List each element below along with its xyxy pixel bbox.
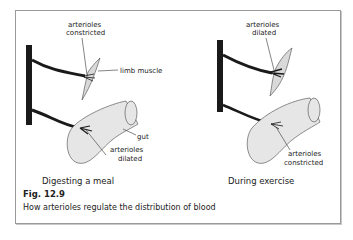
- figure-caption: How arterioles regulate the distribution…: [23, 203, 216, 212]
- muscle-arterioles-label-1: arterioles: [68, 21, 102, 29]
- main-artery: [217, 40, 223, 112]
- gut-arterioles-label-1: arterioles: [288, 150, 322, 158]
- gut-arterioles-label-2: dilated: [118, 155, 142, 163]
- panel-exercise: arterioles dilated arterioles constricte…: [217, 21, 323, 186]
- gut-arterioles-label-2: constricted: [284, 159, 323, 167]
- gut-arterioles-label-1: arterioles: [110, 146, 144, 154]
- muscle-label-pointer: [266, 38, 274, 70]
- muscle-arterioles-label-1: arterioles: [246, 21, 280, 29]
- gut-label: gut: [137, 133, 149, 141]
- limb-muscle-shape: [82, 58, 100, 100]
- limb-muscle-pointer: [98, 70, 118, 71]
- gut-pointer: [123, 129, 136, 135]
- artery-branch-muscle: [223, 55, 272, 73]
- panel-subtitle-digesting: Digesting a meal: [42, 176, 114, 186]
- panel-digesting: arterioles constricted limb muscle gut a…: [26, 21, 162, 186]
- artery-branch-muscle: [32, 60, 85, 76]
- main-artery: [26, 45, 32, 125]
- panel-subtitle-exercise: During exercise: [228, 176, 294, 186]
- figure-number: Fig. 12.9: [23, 189, 65, 199]
- artery-branch-gut: [32, 110, 80, 128]
- gut-opening: [308, 98, 320, 122]
- muscle-arterioles-label-2: dilated: [252, 29, 276, 37]
- limb-muscle-label: limb muscle: [120, 67, 162, 75]
- muscle-arterioles-label-2: constricted: [66, 29, 105, 37]
- gut-opening: [125, 101, 137, 125]
- muscle-label-pointer: [82, 38, 87, 75]
